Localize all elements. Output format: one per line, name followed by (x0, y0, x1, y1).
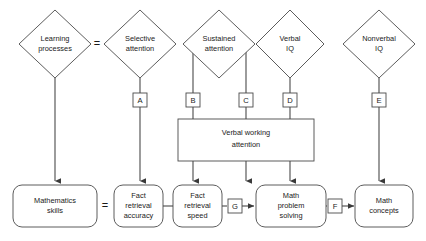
path-label-e-text: E (376, 96, 381, 105)
box-fact-retrieval-accuracy-label-line1: Fact (131, 191, 145, 200)
box-fact-retrieval-speed-label-line3: speed (187, 211, 207, 220)
diamond-verbal-iq-label-line2: IQ (286, 44, 294, 53)
diamond-sustained-attention-label-line2: attention (205, 44, 233, 53)
box-fact-retrieval-accuracy-label-line3: accuracy (124, 211, 154, 220)
path-label-b-text: B (190, 96, 195, 105)
equals-sign-top: = (94, 37, 100, 49)
box-math-concepts-label-line1: Math (376, 196, 392, 205)
path-label-g-text: G (232, 202, 238, 211)
verbal-working-attention-label-line1: Verbal working (222, 128, 270, 137)
diamond-verbal-iq-label-line1: Verbal (280, 34, 301, 43)
box-fact-retrieval-accuracy-label-line2: retrieval (125, 201, 152, 210)
path-label-d-text: D (287, 96, 293, 105)
verbal-working-attention-label-line2: attention (232, 140, 260, 149)
box-mathematics-skills-label-line1: Mathematics (34, 196, 76, 205)
box-math-concepts-label-line2: concepts (369, 206, 399, 215)
diamond-learning-processes-label-line1: Learning (41, 34, 70, 43)
diamond-selective-attention-label-line1: Selective (125, 34, 155, 43)
path-label-c-text: C (243, 96, 249, 105)
box-fact-retrieval-speed-label-line1: Fact (190, 191, 204, 200)
diamond-selective-attention-label-line2: attention (126, 44, 154, 53)
equals-sign-bottom: = (102, 199, 108, 211)
box-fact-retrieval-speed-label-line2: retrieval (184, 201, 211, 210)
diamond-sustained-attention-label-line1: Sustained (203, 34, 236, 43)
diamond-nonverbal-iq-label-line2: IQ (375, 44, 383, 53)
box-math-problem-solving-label-line2: problem (278, 201, 305, 210)
diamond-nonverbal-iq-label-line1: Nonverbal (362, 34, 396, 43)
box-mathematics-skills-label-line2: skills (47, 206, 63, 215)
diamond-learning-processes-label-line2: processes (38, 44, 72, 53)
path-label-f-text: F (333, 202, 338, 211)
flowchart-diagram: Verbal working attention Learning proces… (0, 0, 426, 241)
box-math-problem-solving-label-line3: solving (279, 211, 302, 220)
box-math-problem-solving-label-line1: Math (283, 191, 299, 200)
